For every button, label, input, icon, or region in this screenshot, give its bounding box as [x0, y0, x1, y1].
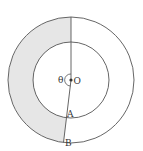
- point-b-label: B: [65, 138, 72, 148]
- center-point: [69, 78, 72, 81]
- theta-label: θ: [58, 75, 63, 85]
- annulus-diagram: θ O A B: [0, 0, 143, 151]
- point-a-label: A: [66, 109, 74, 119]
- center-label: O: [74, 76, 81, 86]
